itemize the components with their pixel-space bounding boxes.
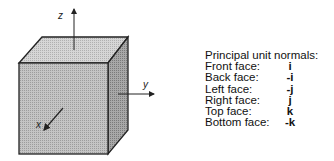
cube-front-face (19, 63, 108, 154)
legend-row-back: Back face: -i (205, 72, 318, 83)
z-axis-label: z (57, 10, 63, 21)
y-axis-label: y (142, 79, 149, 90)
legend-value: -i (280, 72, 300, 83)
legend-value: -k (280, 117, 300, 128)
legend-label: Back face: (205, 72, 280, 83)
cube-diagram: z y x (0, 0, 200, 161)
unit-normals-legend: Principal unit normals: Front face: i Ba… (205, 50, 318, 128)
x-axis-label: x (35, 119, 42, 130)
legend-label: Bottom face: (205, 117, 280, 128)
legend-row-bottom: Bottom face: -k (205, 117, 318, 128)
